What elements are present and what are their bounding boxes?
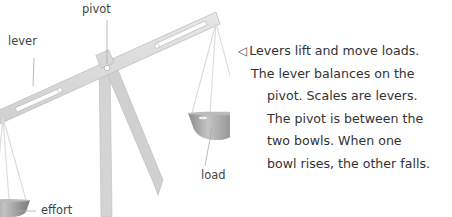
caption-line: ◁Levers lift and move loads. <box>238 40 452 63</box>
pointer-left-arrow-icon: ◁ <box>238 40 247 63</box>
lever-leader-line <box>33 58 34 86</box>
effort-bowl <box>0 118 30 217</box>
pivot-label: pivot <box>82 4 111 16</box>
caption-line: The pivot is between the <box>238 108 452 131</box>
load-label: load <box>201 170 226 182</box>
caption-line: two bowls. When one <box>238 130 452 153</box>
pivot-pin <box>104 65 110 71</box>
caption-line: The lever balances on the <box>238 63 452 86</box>
caption-text: ◁Levers lift and move loads. The lever b… <box>238 40 452 175</box>
scale-stand <box>99 58 163 217</box>
caption-line: pivot. Scales are levers. <box>238 85 452 108</box>
load-bowl <box>188 23 230 140</box>
balance-scale-illustration <box>0 0 230 217</box>
effort-label: effort <box>41 205 72 217</box>
caption-line: bowl rises, the other falls. <box>238 153 452 176</box>
lever-label: lever <box>8 36 37 48</box>
